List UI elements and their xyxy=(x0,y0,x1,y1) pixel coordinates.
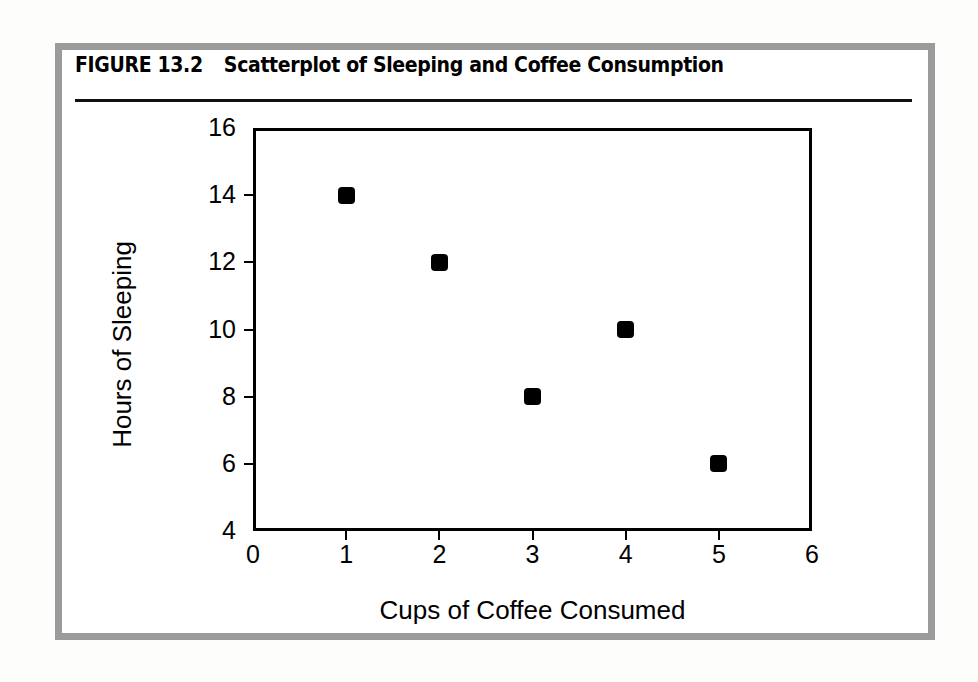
caption-divider-rule xyxy=(75,99,912,102)
figure-header: FIGURE 13.2Scatterplot of Sleeping and C… xyxy=(75,52,915,104)
figure-number-label: FIGURE 13.2 xyxy=(75,52,203,77)
figure-frame xyxy=(55,43,935,640)
page-background: FIGURE 13.2Scatterplot of Sleeping and C… xyxy=(0,0,978,682)
figure-caption-text: Scatterplot of Sleeping and Coffee Consu… xyxy=(224,52,724,77)
figure-caption: FIGURE 13.2Scatterplot of Sleeping and C… xyxy=(75,52,724,77)
